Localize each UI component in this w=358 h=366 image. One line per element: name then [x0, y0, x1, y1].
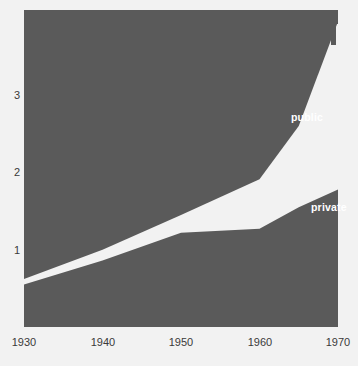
x-tick-label-1970: 1970 [318, 336, 358, 348]
x-tick-label-1950: 1950 [161, 336, 201, 348]
area-chart: 3 2 1 1930 1940 1950 1960 1970 public pr… [0, 0, 358, 366]
series-label-public: public [291, 111, 323, 123]
series-label-private: private [311, 201, 347, 213]
y-tick-label-2: 2 [6, 166, 20, 178]
x-tick-label-1940: 1940 [83, 336, 123, 348]
chart-plot-area [0, 0, 358, 366]
x-tick-label-1930: 1930 [4, 336, 44, 348]
y-tick-label-1: 1 [6, 244, 20, 256]
x-tick-label-1960: 1960 [240, 336, 280, 348]
y-tick-label-3: 3 [6, 89, 20, 101]
